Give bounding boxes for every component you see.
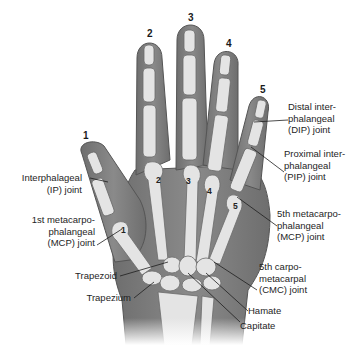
digit-number-1: 1	[83, 130, 89, 141]
metacarpal-number-2: 2	[156, 175, 161, 185]
metacarpal-number-4: 4	[207, 186, 212, 196]
label-trapezium: Trapezium	[86, 292, 131, 304]
label-line: Distal inter-	[288, 101, 336, 113]
label-line: (DIP) joint	[288, 124, 336, 136]
label-line: Interphalageal	[22, 172, 82, 184]
digit-number-4: 4	[226, 38, 232, 49]
digit-number-2: 2	[147, 28, 153, 39]
digit-number-3: 3	[188, 12, 194, 23]
label-line: (MCP) joint	[32, 237, 95, 249]
metacarpal-number-1: 1	[121, 225, 126, 235]
hand-anatomy-diagram: 2 3 4 5 1 2 3 4 5 1 Distal inter- phalan…	[0, 0, 364, 345]
label-5th-cmc-joint: 5th carpo- metacarpal (CMC) joint	[259, 261, 307, 296]
label-line: (CMC) joint	[259, 284, 307, 296]
label-line: (PIP) joint	[284, 171, 345, 183]
label-line: Proximal inter-	[284, 148, 345, 160]
label-line: 1st metacarpo-	[32, 214, 95, 226]
label-trapezoid: Trapezoid	[75, 270, 117, 282]
digit-number-5: 5	[260, 84, 266, 95]
label-5th-mcp-joint: 5th metacarpo- phalangeal (MCP) joint	[277, 208, 341, 243]
label-pip-joint: Proximal inter- phalangeal (PIP) joint	[284, 148, 345, 183]
label-line: metacarpal	[259, 273, 307, 285]
label-line: phalangeal	[32, 226, 95, 238]
metacarpal-number-3: 3	[186, 176, 191, 186]
label-1st-mcp-joint: 1st metacarpo- phalangeal (MCP) joint	[32, 214, 95, 249]
label-line: (IP) joint	[22, 184, 82, 196]
label-capitate: Capitate	[240, 320, 275, 332]
label-dip-joint: Distal inter- phalangeal (DIP) joint	[288, 101, 336, 136]
label-line: phalangeal	[288, 113, 336, 125]
label-line: phalangeal	[284, 160, 345, 172]
metacarpal-number-5: 5	[233, 201, 238, 211]
label-line: 5th metacarpo-	[277, 208, 341, 220]
label-ip-joint: Interphalageal (IP) joint	[22, 172, 82, 195]
label-hamate: Hamate	[248, 305, 281, 317]
label-line: 5th carpo-	[259, 261, 307, 273]
label-line: phalangeal	[277, 220, 341, 232]
label-line: (MCP) joint	[277, 231, 341, 243]
